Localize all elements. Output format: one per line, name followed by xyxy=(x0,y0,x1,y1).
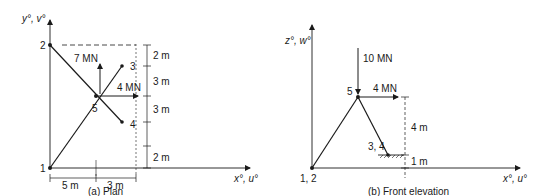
dim-1m: 1 m xyxy=(411,156,428,167)
load-4mn-label: 4 MN xyxy=(117,82,141,93)
plan-caption: (a) Plan xyxy=(88,186,123,196)
front-elevation-view: z°, w° x°, u° 1, 2 5 3, 4 10 MN 4 MN xyxy=(284,25,527,196)
dim-3m-lower: 3 m xyxy=(153,104,170,115)
plan-view: y°, v° x°, u° 2 1 3 4 5 7 MN 4 MN xyxy=(21,13,258,196)
node-2 xyxy=(48,43,52,47)
dim-2m-bottom: 2 m xyxy=(153,152,170,163)
node-3-4-label: 3, 4 xyxy=(368,141,385,152)
node-1-label: 1 xyxy=(40,163,46,174)
dim-4m: 4 m xyxy=(411,122,428,133)
elev-x-axis-label: x°, u° xyxy=(502,173,527,184)
load-10mn-label: 10 MN xyxy=(363,53,392,64)
node-3-4 xyxy=(386,153,390,157)
dim-3m-upper: 3 m xyxy=(153,76,170,87)
node-1-2-label: 1, 2 xyxy=(300,173,317,184)
node-3 xyxy=(120,64,124,68)
node-5-elev xyxy=(356,95,360,99)
dim-5m: 5 m xyxy=(62,180,79,191)
node-4-label: 4 xyxy=(130,119,136,130)
node-2-label: 2 xyxy=(40,40,46,51)
plan-x-axis-label: x°, u° xyxy=(233,173,258,184)
elev-z-axis-label: z°, w° xyxy=(284,35,311,46)
truss-diagram: y°, v° x°, u° 2 1 3 4 5 7 MN 4 MN xyxy=(0,0,545,196)
node-3-label: 3 xyxy=(130,61,136,72)
node-1 xyxy=(48,166,52,170)
elev-caption: (b) Front elevation xyxy=(368,186,449,196)
node-4 xyxy=(120,120,124,124)
member-12-5 xyxy=(312,97,358,168)
node-5-elev-label: 5 xyxy=(347,86,353,97)
member-1-3 xyxy=(50,66,122,168)
node-5-label: 5 xyxy=(92,103,98,114)
node-1-2 xyxy=(310,166,314,170)
dim-2m-top: 2 m xyxy=(153,50,170,61)
plan-y-axis-label: y°, v° xyxy=(21,13,46,24)
load-4mn-elev-label: 4 MN xyxy=(373,83,397,94)
load-7mn-label: 7 MN xyxy=(74,53,98,64)
node-5 xyxy=(94,94,98,98)
